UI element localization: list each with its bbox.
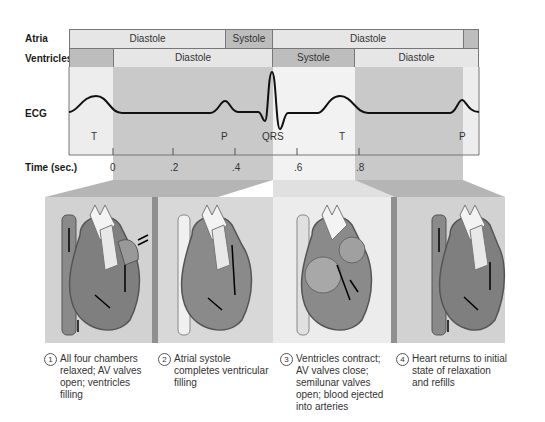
ecg-wave-label: T — [91, 131, 97, 142]
ecg-wave-label: P — [459, 131, 466, 142]
time-tick: 0 — [110, 162, 116, 173]
time-tick: .4 — [232, 162, 240, 173]
ecg-wave-label: P — [221, 131, 228, 142]
step-number: 4 — [396, 353, 409, 366]
caption-text: Atrial systole completes ventricular fil… — [174, 353, 279, 389]
panel-caption-2: 2Atrial systole completes ventricular fi… — [158, 353, 283, 389]
time-tick: .6 — [294, 162, 302, 173]
panel-caption-3: 3Ventricles contract; AV valves close; s… — [280, 353, 390, 413]
step-number: 1 — [44, 353, 57, 366]
step-number: 3 — [280, 353, 293, 366]
ecg-wave-label: QRS — [262, 131, 284, 142]
caption-text: Heart returns to initial state of relaxa… — [412, 353, 508, 389]
panel-caption-1: 1All four chambers relaxed; AV valves op… — [44, 353, 154, 401]
time-tick: .8 — [356, 162, 364, 173]
caption-text: Ventricles contract; AV valves close; se… — [296, 353, 388, 413]
ecg-wave-label: T — [339, 131, 345, 142]
caption-text: All four chambers relaxed; AV valves ope… — [60, 353, 152, 401]
step-number: 2 — [158, 353, 171, 366]
time-tick: .2 — [170, 162, 178, 173]
panel-caption-4: 4Heart returns to initial state of relax… — [396, 353, 511, 389]
